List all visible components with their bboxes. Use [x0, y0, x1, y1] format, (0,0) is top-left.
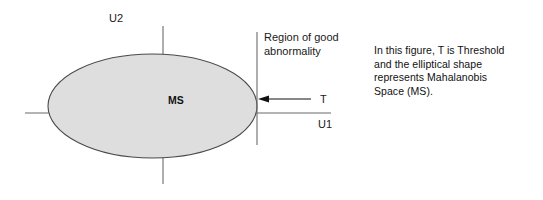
region-label-line2: abnormality [264, 45, 321, 57]
threshold-arrow-head-icon [258, 96, 269, 103]
threshold-label-t: T [320, 93, 327, 105]
ellipse-label-ms: MS [168, 94, 184, 106]
mahalanobis-space-ellipse [48, 54, 257, 158]
caption-line-2: and the elliptical shape [374, 58, 534, 72]
caption-line-1: In this figure, T is Threshold [374, 44, 534, 58]
region-label-line1: Region of good [264, 31, 339, 43]
figure-container: U2 U1 MS Region of good abnormality T In… [0, 0, 543, 200]
caption-line-4: Space (MS). [374, 85, 534, 99]
figure-caption: In this figure, T is Threshold and the e… [374, 44, 534, 98]
caption-line-3: represents Mahalanobis [374, 71, 534, 85]
y-axis-label: U2 [109, 12, 123, 24]
x-axis-label: U1 [318, 118, 332, 130]
mahalanobis-space-diagram: U2 U1 MS Region of good abnormality T [0, 0, 543, 200]
